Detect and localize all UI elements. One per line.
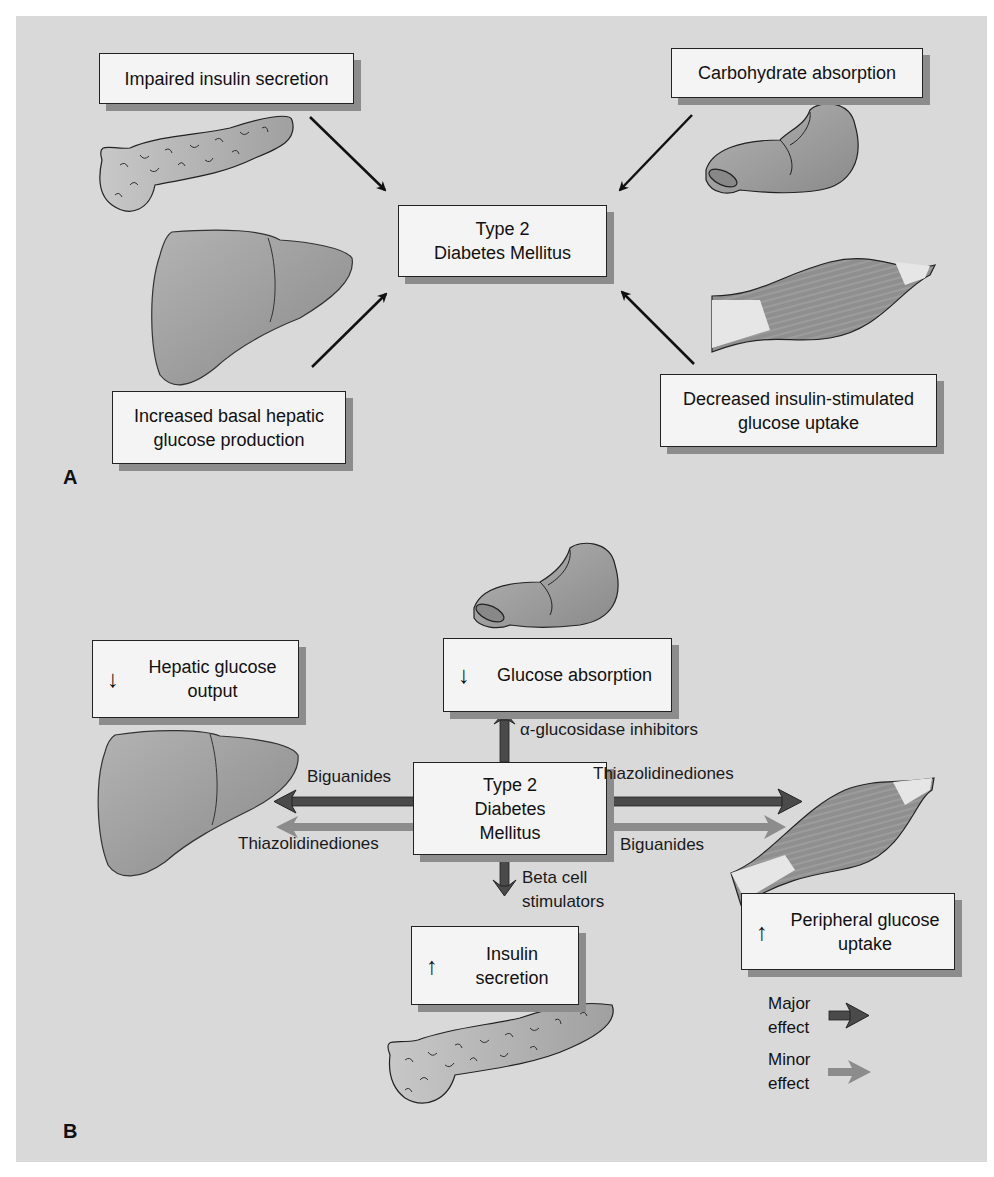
box-label: Carbohydrate absorption <box>698 61 896 85</box>
box-glucose-absorption: ↓ Glucose absorption <box>443 638 672 712</box>
box-label: Peripheral glucose uptake <box>776 908 954 956</box>
arrow-up-major <box>494 712 515 762</box>
legend-major-arrow-icon <box>829 1003 869 1028</box>
intestine-icon <box>706 104 858 193</box>
box-label: Type 2 Diabetes Mellitus <box>474 773 545 845</box>
intestine-icon <box>473 543 618 627</box>
muscle-icon <box>712 259 935 352</box>
box-label: Insulin secretion <box>446 942 578 990</box>
pancreas-icon <box>388 1003 613 1103</box>
legend-minor-effect: Minor effect <box>768 1048 811 1096</box>
panel-label-a: A <box>63 466 77 489</box>
arrow-carbs-to-t2dm <box>620 115 692 190</box>
box-hepatic-glucose-output: ↓ Hepatic glucose output <box>92 640 299 718</box>
arrow-muscle-to-t2dm <box>622 292 694 364</box>
panel-label-b: B <box>63 1120 77 1143</box>
up-arrow-icon: ↑ <box>426 954 438 978</box>
arrow-down-major <box>493 850 516 896</box>
arrow-left-major <box>274 790 418 813</box>
box-increased-hepatic-glucose: Increased basal hepatic glucose producti… <box>112 391 346 464</box>
box-decreased-glucose-uptake: Decreased insulin-stimulated glucose upt… <box>660 374 937 447</box>
box-label: Decreased insulin-stimulated glucose upt… <box>683 387 914 435</box>
arrow-liver-to-t2dm <box>312 294 386 367</box>
box-insulin-secretion: ↑ Insulin secretion <box>411 926 579 1005</box>
box-label: Glucose absorption <box>478 663 671 687</box>
box-carbohydrate-absorption: Carbohydrate absorption <box>671 48 923 98</box>
down-arrow-icon: ↓ <box>107 667 119 691</box>
arrow-pancreas-to-t2dm <box>310 117 385 190</box>
pancreas-icon <box>100 116 293 211</box>
legend-minor-arrow-icon <box>828 1060 871 1084</box>
label-alpha-glucosidase-inhibitors: α-glucosidase inhibitors <box>520 720 698 740</box>
label-beta-cell-stimulators: Beta cell stimulators <box>522 866 604 914</box>
liver-icon <box>98 731 298 876</box>
box-label: Increased basal hepatic glucose producti… <box>134 404 324 452</box>
box-peripheral-glucose-uptake: ↑ Peripheral glucose uptake <box>741 893 955 970</box>
liver-icon <box>152 230 353 385</box>
label-thiazolidinediones-left: Thiazolidinediones <box>238 834 379 854</box>
box-type2-diabetes-center-b: Type 2 Diabetes Mellitus <box>413 762 607 855</box>
label-biguanides-right: Biguanides <box>620 835 704 855</box>
box-label: Type 2 Diabetes Mellitus <box>434 217 571 265</box>
box-label: Hepatic glucose output <box>127 655 298 703</box>
arrow-right-major <box>606 789 802 814</box>
box-impaired-insulin-secretion: Impaired insulin secretion <box>99 53 354 104</box>
down-arrow-icon: ↓ <box>458 663 470 687</box>
label-thiazolidinediones-right: Thiazolidinediones <box>593 764 734 784</box>
legend-major-effect: Major effect <box>768 992 811 1040</box>
box-label: Impaired insulin secretion <box>124 67 328 91</box>
box-type2-diabetes-center-a: Type 2 Diabetes Mellitus <box>398 205 607 277</box>
label-biguanides-left: Biguanides <box>307 767 391 787</box>
up-arrow-icon: ↑ <box>756 920 768 944</box>
